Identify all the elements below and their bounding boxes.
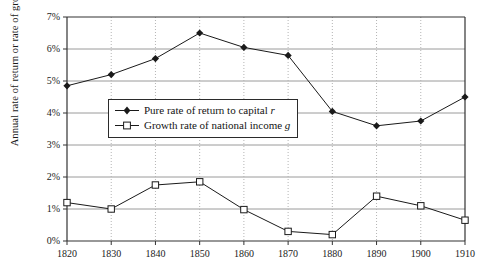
x-tick-label: 1850 — [177, 249, 223, 259]
legend-label-r-text: Pure rate of return to capital — [144, 104, 268, 116]
y-tick-label: 3% — [27, 140, 60, 150]
legend-item-g: Growth rate of national income g — [114, 118, 290, 133]
x-axis-tick-marks — [67, 241, 465, 245]
x-tick-label: 1820 — [44, 249, 90, 259]
x-tick-label: 1830 — [88, 249, 134, 259]
legend-symbol-g: g — [285, 119, 291, 131]
x-tick-label: 1860 — [221, 249, 267, 259]
legend-label-g: Growth rate of national income g — [144, 120, 290, 131]
data-point-marker — [373, 193, 379, 199]
data-point-marker — [64, 199, 70, 205]
data-point-marker — [197, 179, 203, 185]
x-tick-label: 1840 — [132, 249, 178, 259]
data-point-marker — [108, 206, 114, 212]
x-tick-label: 1880 — [309, 249, 355, 259]
x-tick-label: 1910 — [442, 249, 487, 259]
data-point-marker — [152, 182, 158, 188]
data-point-marker — [329, 231, 335, 237]
legend-label-r: Pure rate of return to capital r — [144, 105, 275, 116]
x-tick-label: 1890 — [354, 249, 400, 259]
y-tick-label: 1% — [27, 204, 60, 214]
x-tick-label: 1870 — [265, 249, 311, 259]
open-square-marker-icon — [114, 120, 140, 131]
chart-figure: Annual rate of return or rate of growth … — [0, 0, 487, 270]
data-point-marker — [418, 203, 424, 209]
y-tick-label: 7% — [27, 12, 60, 22]
y-tick-label: 0% — [27, 236, 60, 246]
legend-label-g-text: Growth rate of national income — [144, 119, 282, 131]
data-point-marker — [285, 228, 291, 234]
y-tick-label: 2% — [27, 172, 60, 182]
y-tick-label: 4% — [27, 108, 60, 118]
x-tick-label: 1900 — [398, 249, 444, 259]
legend-symbol-r: r — [270, 104, 274, 116]
data-point-marker — [241, 206, 247, 212]
filled-diamond-marker-icon — [114, 105, 140, 116]
y-tick-label: 6% — [27, 44, 60, 54]
y-tick-label: 5% — [27, 76, 60, 86]
data-point-marker — [462, 217, 468, 223]
chart-legend: Pure rate of return to capital r Growth … — [108, 99, 298, 138]
legend-item-r: Pure rate of return to capital r — [114, 103, 290, 118]
